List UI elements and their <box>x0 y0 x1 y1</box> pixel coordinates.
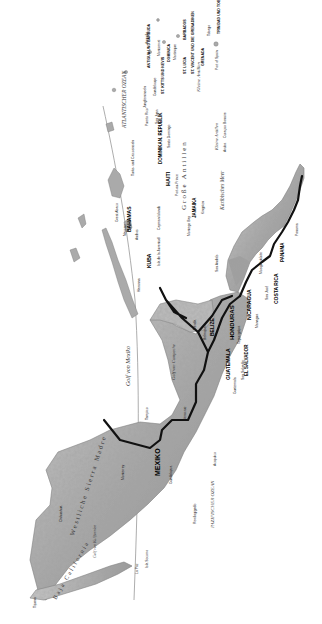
label-montserrat: Montserrat <box>157 40 161 56</box>
label-martinique: Martinique <box>173 44 177 60</box>
label-cayman: Cayman Islands <box>157 205 161 230</box>
label-cuba: KUBA <box>146 253 152 268</box>
label-guadeloupe: Guadeloupe <box>153 77 157 96</box>
label-tijuana: Tijuana <box>33 597 37 608</box>
label-santo-domingo: Santo Domingo <box>167 125 171 148</box>
hispaniola-island <box>108 168 124 198</box>
label-guadalajara: Guadalajara <box>169 465 173 484</box>
label-turks: Turks- und Caicosinseln <box>131 140 135 176</box>
label-atlantic: ATLANTISCHER OZEAN <box>121 71 127 129</box>
label-st-lucia: ST. LUCIA <box>183 56 187 74</box>
label-nassau: Nassau <box>123 224 127 236</box>
label-guatemala: GUATEMALA <box>225 348 231 380</box>
label-antigua: ANTIGUA UND BARBUDA <box>147 23 151 68</box>
label-gulf-mexico: Golf von Mexiko <box>125 346 131 386</box>
label-andros: Andros <box>135 229 139 240</box>
label-tampico: Tampico <box>145 407 149 420</box>
label-st-vincent: ST. VINCENT UND DIE GRENADINEN <box>191 11 195 74</box>
label-virgin-islands: Jungferninseln <box>143 86 147 108</box>
label-san-salvador: San Salvador <box>241 359 245 380</box>
label-aruba: Aruba <box>223 143 227 152</box>
label-nicaragua: NICARAGUA <box>246 289 252 320</box>
label-panama: PANAMA <box>280 242 285 262</box>
label-havana: Havanna <box>137 278 141 292</box>
label-montego-bay: Montego Bay <box>187 216 191 236</box>
label-greater-antilles: Große Antillen <box>180 140 188 210</box>
label-belmopan: Belmopan <box>203 325 207 340</box>
label-socorro: Isla Socorro <box>145 550 149 568</box>
label-isla-juventud: Isla de la Juventud <box>157 238 161 266</box>
label-st-kitts: ST. KITTS UND NEVIS <box>161 56 165 94</box>
label-mosquitos: Mosquitoküste <box>259 252 263 274</box>
label-jamaica: JAMAIKA <box>192 197 197 218</box>
label-puerto-rico: Puerto Rico <box>145 108 149 126</box>
label-trinidad: TRINIDAD UND TOBAGO <box>217 0 221 34</box>
bahamas-islands <box>70 214 86 262</box>
label-pacific: PAZIFISCHER OZEAN <box>210 480 215 529</box>
label-port-au-prince: Port-au-Prince <box>175 174 179 196</box>
label-acapulco: Acapulco <box>213 452 217 466</box>
label-caribbean: Karibisches Meer <box>219 170 225 211</box>
label-bonaire: Bonaire <box>223 112 227 124</box>
label-panama-city: Panama <box>295 223 299 236</box>
label-veracruz: Veracruz <box>183 406 187 420</box>
label-san-jose: San José <box>265 286 269 300</box>
label-tegucigalpa: Tegucigalpa <box>237 326 241 344</box>
lesser-antilles-dot <box>112 88 116 92</box>
label-lesser-antilles-south: Kleine Antillen <box>214 122 219 151</box>
label-gulf-california: Golf von Kalifornien <box>92 525 97 558</box>
label-costa-rica: COSTA RICA <box>273 273 279 304</box>
puerto-rico-island <box>106 122 114 132</box>
label-managua: Managua <box>255 314 259 328</box>
label-grenada: GRENADA <box>201 47 205 66</box>
central-america-landmass <box>226 164 304 292</box>
label-great-abaco: Great Abaco <box>115 203 119 222</box>
label-port-of-spain: Port of Spain <box>215 50 219 70</box>
label-belize: BELIZE <box>209 318 215 336</box>
label-chihuahua: Chihuahua <box>59 505 63 522</box>
label-guatemala-city: Guatemala <box>233 377 237 394</box>
label-kingston: Kingston <box>201 201 205 214</box>
label-haiti: HAITI <box>165 171 171 186</box>
label-mexico: MEXIKO <box>154 448 161 476</box>
map-canvas: ATLANTISCHER OZEAN PAZIFISCHER OZEAN Gol… <box>0 0 322 624</box>
label-tobago: Tobago <box>207 25 211 36</box>
cuba-island <box>102 228 138 318</box>
label-revillagigedo: Revillagigedo <box>193 504 197 524</box>
label-san-juan: San Juan <box>155 110 159 124</box>
label-barbados: BARBADOS <box>183 19 187 40</box>
label-honduras: HONDURAS <box>229 305 235 340</box>
label-san-andres: San Andrés <box>215 254 219 272</box>
label-curacao: Curaçao <box>223 125 227 138</box>
label-dominica: DOMINICA <box>167 43 171 62</box>
label-monterrey: Monterrey <box>121 464 125 480</box>
label-la-paz: La Paz <box>135 563 139 574</box>
label-anguilla: Anguilla <box>145 32 149 44</box>
label-gulf-campeche: Golf von Campeche <box>171 344 176 380</box>
label-merida: Mérida <box>193 320 197 330</box>
